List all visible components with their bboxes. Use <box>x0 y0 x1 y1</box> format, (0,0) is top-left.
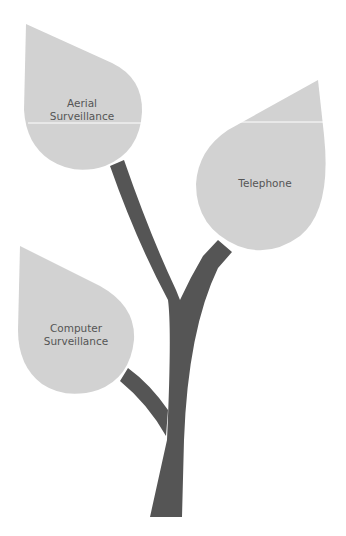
leaf-computer <box>18 246 134 394</box>
leaf-label-telephone: Telephone <box>238 177 291 190</box>
tree-diagram: Aerial Surveillance Telephone Computer S… <box>0 0 346 536</box>
label-line: Aerial <box>50 97 114 110</box>
label-line: Telephone <box>238 177 291 190</box>
leaf-telephone <box>196 80 326 250</box>
leaf-label-computer: Computer Surveillance <box>44 322 108 348</box>
label-line: Surveillance <box>44 335 108 348</box>
tree-graphic <box>0 0 346 536</box>
leaf-label-aerial: Aerial Surveillance <box>50 97 114 123</box>
label-line: Surveillance <box>50 110 114 123</box>
label-line: Computer <box>44 322 108 335</box>
